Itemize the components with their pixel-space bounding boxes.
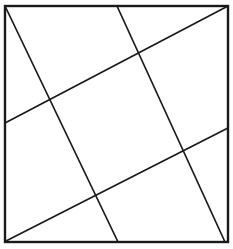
diagram-background [0, 0, 233, 249]
geometry-diagram [0, 0, 233, 249]
figure-canvas [0, 0, 233, 249]
